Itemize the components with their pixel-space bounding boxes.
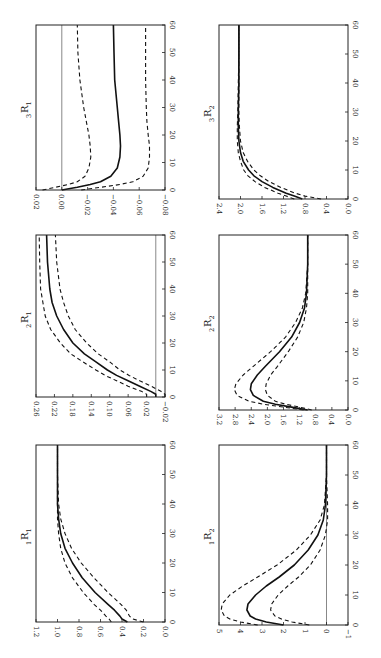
time-axis-tick-label: 30 xyxy=(168,312,176,321)
panel-2R1: 0.260.220.180.140.100.060.02−0.020102030… xyxy=(19,231,176,423)
series-lower-line xyxy=(271,445,328,625)
title-suffix: 2 xyxy=(208,105,216,109)
series-upper-line xyxy=(234,235,307,410)
time-axis-tick-label: 40 xyxy=(168,285,176,294)
value-axis-tick-label: −0.08 xyxy=(161,194,169,215)
time-axis-tick-label: 0 xyxy=(168,395,176,399)
series-upper-line xyxy=(237,25,294,199)
panel-title: 1R2 xyxy=(202,528,216,545)
time-axis-tick-label: 30 xyxy=(168,103,176,112)
time-axis-tick-label: 10 xyxy=(168,588,176,597)
series-upper-line xyxy=(221,445,326,625)
time-axis-tick-label: 30 xyxy=(351,318,359,327)
time-axis-tick-label: 0 xyxy=(351,623,359,627)
time-axis-tick-label: 20 xyxy=(351,347,359,356)
time-axis-tick-label: 0 xyxy=(168,620,176,624)
value-axis-tick-label: −0.02 xyxy=(83,194,91,215)
value-axis-tick-label: 1.2 xyxy=(295,414,303,425)
plot-frame xyxy=(219,235,348,410)
time-axis-tick-label: 50 xyxy=(168,48,176,57)
time-axis-tick-label: 0 xyxy=(168,188,176,192)
title-prefix: 2 xyxy=(208,328,216,332)
value-axis-tick-label: 1 xyxy=(301,629,309,633)
time-axis-tick-label: 60 xyxy=(351,441,359,450)
value-axis-tick-label: 0.0 xyxy=(161,626,169,637)
value-axis-tick-label: 0.0 xyxy=(344,203,352,214)
series-estimate-line xyxy=(58,445,128,622)
panel-3R2: 2.42.01.61.20.80.40.001020304050603R2 xyxy=(202,21,359,215)
value-axis-tick-label: 1.2 xyxy=(32,626,40,637)
time-axis-tick-label: 10 xyxy=(351,591,359,600)
time-axis-tick-label: 10 xyxy=(168,158,176,167)
panel-2R2: 3.22.82.42.01.61.20.80.40.00102030405060… xyxy=(202,231,359,426)
time-axis-tick-label: 30 xyxy=(351,108,359,117)
value-axis-tick-label: 0.02 xyxy=(142,401,150,417)
value-axis-tick-label: 4 xyxy=(236,629,244,634)
figure-canvas: 0.020.00−0.02−0.04−0.06−0.08010203040506… xyxy=(0,0,381,658)
time-axis-tick-label: 50 xyxy=(168,470,176,479)
panel-title: 1R1 xyxy=(19,528,33,545)
time-axis-tick-label: 20 xyxy=(351,561,359,570)
time-axis-tick-label: 10 xyxy=(168,366,176,375)
series-estimate-line xyxy=(250,235,307,410)
title-prefix: 3 xyxy=(25,114,33,118)
series-lower-line xyxy=(265,235,311,410)
time-axis-tick-label: 40 xyxy=(168,500,176,509)
time-axis-tick-label: 20 xyxy=(168,339,176,348)
time-axis-tick-label: 60 xyxy=(351,231,359,240)
time-axis-tick-label: 10 xyxy=(351,166,359,175)
time-axis-tick-label: 40 xyxy=(351,79,359,88)
time-axis-tick-label: 50 xyxy=(351,471,359,480)
plot-frame xyxy=(36,445,165,622)
time-axis-tick-label: 60 xyxy=(168,441,176,450)
value-axis-tick-label: 2.0 xyxy=(263,414,271,425)
series-estimate-line xyxy=(238,25,302,199)
panel-3R1: 0.020.00−0.02−0.04−0.06−0.08010203040506… xyxy=(19,21,176,216)
series-estimate-line xyxy=(47,235,156,397)
series-lower-line xyxy=(81,25,149,190)
time-axis-tick-label: 0 xyxy=(351,197,359,201)
value-axis-tick-label: −0.04 xyxy=(109,194,117,216)
panel-title: 2R2 xyxy=(202,315,216,332)
time-axis-tick-label: 20 xyxy=(351,137,359,146)
time-axis-tick-label: 60 xyxy=(168,231,176,240)
value-axis-tick-label: 0.8 xyxy=(311,414,319,425)
time-axis-tick-label: 40 xyxy=(168,76,176,85)
plot-frame xyxy=(36,235,165,397)
value-axis-tick-label: 0.8 xyxy=(301,203,309,214)
time-axis-tick-label: 60 xyxy=(351,21,359,30)
title-suffix: 1 xyxy=(25,311,33,315)
panel-title: 2R1 xyxy=(19,311,33,328)
time-axis-tick-label: 30 xyxy=(168,529,176,538)
value-axis-tick-label: 0.22 xyxy=(50,401,58,417)
time-axis-tick-label: 20 xyxy=(168,131,176,140)
title-suffix: 2 xyxy=(208,528,216,532)
value-axis-tick-label: 0.14 xyxy=(87,401,95,417)
value-axis-tick-label: 5 xyxy=(215,629,223,633)
series-upper-line xyxy=(39,235,146,397)
value-axis-tick-label: 0.6 xyxy=(96,626,104,638)
value-axis-tick-label: 0.18 xyxy=(68,401,76,417)
time-axis-tick-label: 50 xyxy=(351,50,359,59)
value-axis-tick-label: 0.10 xyxy=(105,401,113,417)
time-axis-tick-label: 40 xyxy=(351,501,359,510)
value-axis-tick-label: 2.8 xyxy=(231,414,239,425)
value-axis-tick-label: 1.6 xyxy=(279,414,287,426)
value-axis-tick-label: 0.2 xyxy=(139,626,147,637)
title-prefix: 1 xyxy=(25,541,33,545)
panel-title: 3R2 xyxy=(202,105,216,122)
value-axis-tick-label: 0.4 xyxy=(118,626,126,638)
panel-1R2: 543210−101020304050601R2 xyxy=(202,441,359,640)
panel-title: 3R1 xyxy=(19,101,33,118)
title-suffix: 2 xyxy=(208,315,216,319)
value-axis-tick-label: 0.02 xyxy=(32,194,40,210)
value-axis-tick-label: 0.0 xyxy=(344,414,352,425)
panel-1R1: 1.21.00.80.60.40.20.001020304050601R1 xyxy=(19,441,176,638)
value-axis-tick-label: 1.6 xyxy=(258,203,266,215)
series-lower-line xyxy=(58,445,144,622)
value-axis-tick-label: 0.00 xyxy=(57,194,65,210)
value-axis-tick-label: 0 xyxy=(322,629,330,633)
value-axis-tick-label: 2.4 xyxy=(247,414,255,426)
value-axis-tick-label: 3.2 xyxy=(215,414,223,425)
time-axis-tick-label: 30 xyxy=(351,531,359,540)
